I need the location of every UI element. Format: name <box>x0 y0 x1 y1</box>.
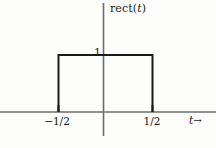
x-axis-variable-label: t→ <box>189 115 202 126</box>
function-name-suffix: ) <box>142 2 146 15</box>
x-tick-label-negative-half: −1/2 <box>39 116 75 127</box>
plot-canvas <box>0 0 216 148</box>
function-name-prefix: rect( <box>110 2 137 15</box>
x-tick-label-positive-half: 1/2 <box>137 116 167 127</box>
function-name-label: rect(t) <box>110 3 146 14</box>
rect-function-figure: rect(t) 1 −1/2 1/2 t→ <box>0 0 216 148</box>
right-arrow-icon: → <box>193 115 201 126</box>
amplitude-label: 1 <box>93 47 101 58</box>
rect-pulse-curve <box>59 55 153 112</box>
